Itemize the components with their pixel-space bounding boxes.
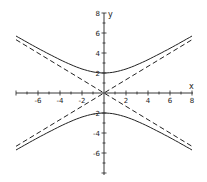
y-tick-label: 8 bbox=[96, 10, 100, 18]
x-tick-label: -2 bbox=[79, 97, 86, 105]
x-axis-label: x bbox=[189, 82, 194, 91]
y-axis-label: y bbox=[108, 10, 113, 19]
y-tick-label: -6 bbox=[93, 150, 101, 158]
tick-labels: -6-4-224688642-2-4-6 bbox=[35, 10, 195, 158]
y-tick-label: 6 bbox=[96, 30, 101, 38]
axes bbox=[16, 13, 193, 175]
x-tick-label: -6 bbox=[35, 97, 43, 105]
y-tick-label: -2 bbox=[93, 110, 100, 118]
x-tick-label: 6 bbox=[168, 97, 173, 105]
x-tick-label: 4 bbox=[146, 97, 151, 105]
x-tick-label: 8 bbox=[190, 97, 194, 105]
hyperbola-chart: -6-4-224688642-2-4-6 x y bbox=[0, 0, 207, 182]
x-tick-label: -4 bbox=[57, 97, 65, 105]
y-tick-label: 4 bbox=[96, 50, 101, 58]
x-tick-label: 2 bbox=[124, 97, 128, 105]
y-tick-label: 2 bbox=[96, 70, 100, 78]
y-tick-label: -4 bbox=[93, 130, 101, 138]
